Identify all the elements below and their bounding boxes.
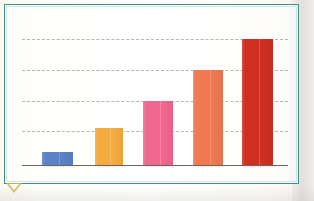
bar-1[interactable] bbox=[42, 152, 73, 165]
bar-seam bbox=[259, 39, 260, 165]
bar-shading bbox=[213, 70, 223, 165]
bar-highlight bbox=[95, 128, 98, 165]
bar-seam bbox=[110, 128, 111, 165]
bar-highlight bbox=[242, 39, 245, 165]
bar-highlight bbox=[42, 152, 45, 165]
bar-highlight bbox=[143, 101, 146, 165]
bar-shading bbox=[163, 101, 173, 165]
bar-shading bbox=[113, 128, 123, 165]
bar-shading bbox=[262, 39, 273, 165]
bar-seam bbox=[59, 152, 60, 165]
bar-highlight bbox=[193, 70, 196, 165]
bar-seam bbox=[160, 101, 161, 165]
bar-3[interactable] bbox=[143, 101, 173, 165]
bar-5[interactable] bbox=[242, 39, 273, 165]
triangle-marker-inner-icon bbox=[9, 184, 19, 190]
x-axis-baseline bbox=[22, 165, 288, 166]
bar-seam bbox=[210, 70, 211, 165]
bar-shading bbox=[62, 152, 73, 165]
bar-chart-plot-area bbox=[0, 0, 314, 201]
bar-2[interactable] bbox=[95, 128, 123, 165]
bar-4[interactable] bbox=[193, 70, 223, 165]
